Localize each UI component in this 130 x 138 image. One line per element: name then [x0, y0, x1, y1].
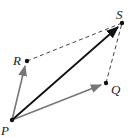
label-P: P: [0, 123, 9, 138]
vector-diagram: P R Q S: [0, 0, 130, 138]
diagram-canvas: P R Q S: [0, 0, 130, 138]
label-Q: Q: [111, 82, 121, 97]
point-P: [10, 118, 14, 122]
dashed-line-QS: [106, 23, 122, 83]
label-S: S: [116, 7, 123, 22]
point-Q: [104, 81, 108, 85]
vector-PR: [12, 66, 25, 120]
label-R: R: [12, 53, 21, 68]
dashed-line-RS: [27, 23, 122, 61]
point-R: [25, 59, 29, 63]
vector-PS: [12, 27, 118, 120]
vector-PQ: [12, 85, 101, 120]
